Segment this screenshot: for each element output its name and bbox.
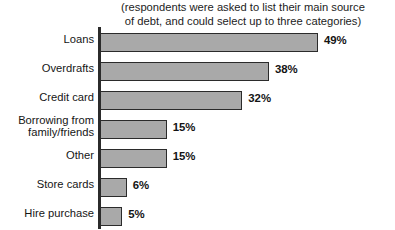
bar-chart: (respondents were asked to list their ma…	[0, 0, 395, 230]
bar-row: Overdrafts38%	[0, 57, 395, 86]
bar	[100, 62, 269, 81]
bar-value-label: 49%	[324, 34, 347, 46]
bar-value-label: 38%	[275, 63, 298, 75]
bar-row: Loans49%	[0, 28, 395, 57]
bar	[100, 207, 122, 226]
bar-row: Credit card32%	[0, 86, 395, 115]
bar-row: Borrowing from family/friends15%	[0, 115, 395, 144]
category-label: Overdrafts	[2, 62, 94, 74]
category-label: Hire purchase	[2, 207, 94, 219]
bar-value-label: 15%	[173, 121, 196, 133]
chart-subtitle: (respondents were asked to list their ma…	[95, 1, 391, 28]
bar	[100, 149, 167, 168]
category-label: Credit card	[2, 91, 94, 103]
bar-value-label: 5%	[128, 208, 144, 220]
category-label: Store cards	[2, 178, 94, 190]
bar-value-label: 6%	[133, 179, 149, 191]
bar	[100, 120, 167, 139]
category-label: Other	[2, 149, 94, 161]
category-label: Loans	[2, 33, 94, 45]
bar-row: Store cards6%	[0, 173, 395, 202]
bar	[100, 91, 242, 110]
bar	[100, 178, 127, 197]
plot-area: Loans49%Overdrafts38%Credit card32%Borro…	[0, 27, 395, 230]
category-label: Borrowing from family/friends	[2, 114, 94, 138]
bar-row: Hire purchase5%	[0, 202, 395, 230]
bar-value-label: 32%	[248, 92, 271, 104]
bar-value-label: 15%	[173, 150, 196, 162]
bar	[100, 33, 318, 52]
bar-row: Other15%	[0, 144, 395, 173]
